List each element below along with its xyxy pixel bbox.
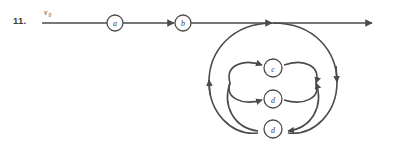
node-d-bottom[interactable]: d	[264, 120, 282, 138]
node-b-label: b	[181, 19, 185, 28]
node-d-middle[interactable]: d	[264, 90, 282, 108]
outer-to-d2-left-arc	[228, 83, 258, 131]
figure-container: 11. v 0	[0, 0, 396, 144]
node-a[interactable]: a	[107, 15, 123, 31]
node-b[interactable]: b	[175, 15, 191, 31]
start-vertex-label-subscript: 0	[49, 12, 52, 18]
outer-to-d2-right-arc	[288, 83, 318, 131]
outer-loop-left-arrowhead	[209, 80, 210, 95]
outer-loop-right-arrowhead	[336, 66, 337, 82]
outer-loop-left-arc	[209, 23, 273, 133]
node-c-label: c	[271, 65, 275, 74]
node-c[interactable]: c	[264, 59, 282, 77]
middle-loop-right-lower-arc	[284, 83, 317, 102]
outer-loop-right-arc	[273, 23, 337, 133]
graph-diagram: v 0 a b	[0, 0, 396, 144]
middle-loop-right-upper-arc	[284, 62, 317, 83]
middle-loop-left-upper-arc	[229, 62, 262, 83]
start-vertex-label: v 0	[44, 8, 52, 18]
middle-loop-left-lower-arc	[229, 83, 262, 102]
start-vertex-label-text: v	[44, 8, 48, 17]
node-a-label: a	[113, 19, 117, 28]
